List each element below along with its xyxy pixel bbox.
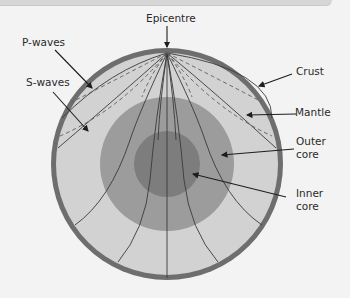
- label-outer-core-line2: core: [296, 148, 319, 161]
- label-outer-core-line1: Outer: [296, 135, 326, 148]
- label-epicentre: Epicentre: [146, 12, 196, 25]
- label-inner-core-line1: Inner: [296, 187, 323, 200]
- label-crust: Crust: [296, 65, 324, 78]
- label-s-waves: S-waves: [26, 76, 70, 89]
- label-p-waves: P-waves: [22, 36, 65, 49]
- label-inner-core-line2: core: [296, 200, 319, 213]
- crust-arrow: [259, 74, 292, 86]
- label-mantle: Mantle: [295, 106, 331, 119]
